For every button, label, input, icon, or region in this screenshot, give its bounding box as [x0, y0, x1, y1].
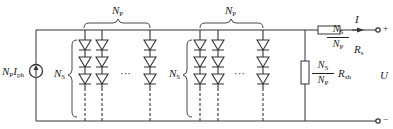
shunt-resistor-icon [301, 61, 309, 84]
ellipsis-group-1: ··· [120, 68, 131, 79]
shunt-resistor-r: Rsh [338, 68, 351, 81]
ns-label-group-2: NS [169, 68, 180, 81]
ns-label-group-1: NS [54, 68, 65, 81]
series-resistor-r: Rs [354, 44, 363, 57]
circuit-schematic [0, 0, 393, 129]
current-label: I [355, 14, 359, 25]
voltage-label: U [380, 70, 388, 81]
current-arrow-icon [352, 27, 364, 33]
plus-terminal[interactable]: + [383, 24, 388, 33]
np-label-group-2: NP [225, 5, 236, 18]
minus-terminal[interactable]: − [383, 115, 388, 124]
np-label-group-1: NP [112, 5, 123, 18]
ellipsis-group-2: ··· [234, 68, 245, 79]
current-source-icon [29, 64, 43, 78]
source-label: NPIph [2, 66, 24, 79]
